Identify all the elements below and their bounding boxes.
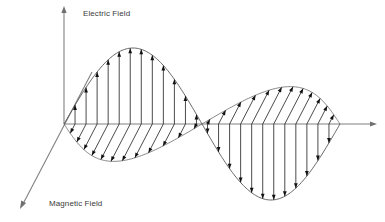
- magnetic-field-vector: [252, 90, 269, 124]
- arrow-diagonal-icon: [289, 87, 293, 92]
- arrow-right-icon: [370, 121, 377, 126]
- magnetic-field-label: Magnetic Field: [49, 199, 102, 209]
- magnetic-field-vector: [285, 88, 303, 124]
- wave-canvas: [0, 0, 385, 222]
- magnetic-field-axis: [24, 72, 92, 202]
- arrow-down-left-icon: [20, 200, 26, 209]
- arrow-up-icon: [61, 6, 66, 13]
- arrow-diagonal-icon: [330, 115, 334, 120]
- arrow-vertical-icon: [239, 178, 243, 183]
- arrow-vertical-icon: [161, 65, 165, 70]
- arrow-diagonal-icon: [70, 128, 74, 133]
- arrow-diagonal-icon: [111, 156, 115, 161]
- arrow-vertical-icon: [95, 72, 99, 77]
- arrow-diagonal-icon: [77, 137, 81, 142]
- magnetic-field-vector: [274, 87, 293, 124]
- arrow-vertical-icon: [305, 171, 309, 176]
- magnetic-field-vector: [111, 124, 130, 161]
- arrow-vertical-icon: [272, 195, 276, 200]
- arrow-vertical-icon: [128, 48, 132, 53]
- magnetic-field-vector: [101, 124, 119, 160]
- arrow-diagonal-icon: [101, 154, 105, 159]
- magnetic-field-vector: [263, 87, 282, 124]
- magnetic-field-vector: [122, 124, 141, 161]
- electric-field-label: Electric Field: [83, 9, 130, 19]
- arrow-diagonal-icon: [308, 92, 312, 97]
- arrow-diagonal-icon: [316, 98, 320, 103]
- arrow-diagonal-icon: [84, 144, 88, 149]
- arrow-diagonal-icon: [299, 88, 303, 93]
- magnetic-field-vector: [135, 124, 152, 158]
- electromagnetic-wave-diagram: Electric Field Magnetic Field: [0, 0, 385, 222]
- arrow-diagonal-icon: [323, 106, 327, 111]
- arrow-diagonal-icon: [92, 150, 96, 155]
